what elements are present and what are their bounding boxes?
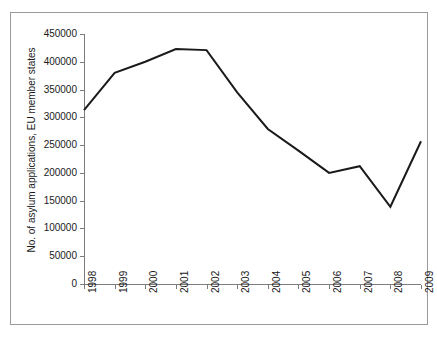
x-axis-tick xyxy=(84,285,85,289)
y-axis-tick-label: 450000 xyxy=(44,29,77,39)
y-axis-tick-label: 250000 xyxy=(44,140,77,150)
chart-figure: No. of asylum applications, EU member st… xyxy=(0,0,437,345)
y-axis-tick-label: 400000 xyxy=(44,57,77,67)
x-axis-tick xyxy=(329,285,330,289)
y-axis-tick-label: 150000 xyxy=(44,196,77,206)
x-axis-tick xyxy=(176,285,177,289)
x-axis-tick xyxy=(390,285,391,289)
chart-frame: No. of asylum applications, EU member st… xyxy=(10,12,428,325)
y-axis-title: No. of asylum applications, EU member st… xyxy=(27,25,39,275)
x-axis-tick xyxy=(145,285,146,289)
y-axis-tick-label: 0 xyxy=(71,279,77,289)
data-series-line xyxy=(84,34,421,284)
y-axis-tick-label: 50000 xyxy=(49,251,77,261)
plot-area: 0500001000001500002000002500003000003500… xyxy=(84,34,421,284)
x-axis-tick xyxy=(268,285,269,289)
x-axis-tick xyxy=(298,285,299,289)
x-axis-tick xyxy=(421,285,422,289)
x-axis-tick xyxy=(207,285,208,289)
x-axis-tick xyxy=(360,285,361,289)
x-axis-tick xyxy=(237,285,238,289)
y-axis-tick-label: 100000 xyxy=(44,223,77,233)
y-axis-tick-label: 200000 xyxy=(44,168,77,178)
x-axis-tick-label: 2009 xyxy=(425,271,435,293)
y-axis-tick-label: 300000 xyxy=(44,112,77,122)
y-axis-tick-label: 350000 xyxy=(44,85,77,95)
x-axis-tick xyxy=(115,285,116,289)
